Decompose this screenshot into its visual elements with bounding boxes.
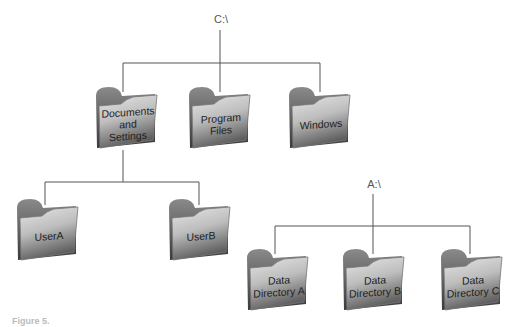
- folder-windows[interactable]: Windows: [286, 84, 354, 152]
- folder-data-directory-a[interactable]: Data Directory A: [244, 246, 312, 314]
- folder-label: UserB: [174, 216, 228, 256]
- folder-usera[interactable]: UserA: [14, 196, 82, 264]
- root-drive-a-label: A:\: [367, 178, 380, 190]
- folder-data-directory-c[interactable]: Data Directory C: [438, 246, 506, 314]
- folder-label: Documents and Settings: [101, 104, 155, 144]
- folder-label: Windows: [294, 104, 348, 144]
- folder-program-files[interactable]: Program Files: [186, 84, 254, 152]
- folder-documents-and-settings[interactable]: Documents and Settings: [93, 84, 161, 152]
- root-drive-c-label: C:\: [214, 13, 228, 25]
- folder-data-directory-b[interactable]: Data Directory B: [340, 246, 408, 314]
- folder-userb[interactable]: UserB: [166, 196, 234, 264]
- folder-label: Data Directory A: [252, 266, 306, 306]
- folder-label: Data Directory C: [446, 266, 500, 306]
- folder-label: UserA: [22, 216, 76, 256]
- figure-caption: Figure 5.: [12, 316, 50, 326]
- folder-label: Data Directory B: [348, 266, 402, 306]
- folder-label: Program Files: [194, 104, 248, 144]
